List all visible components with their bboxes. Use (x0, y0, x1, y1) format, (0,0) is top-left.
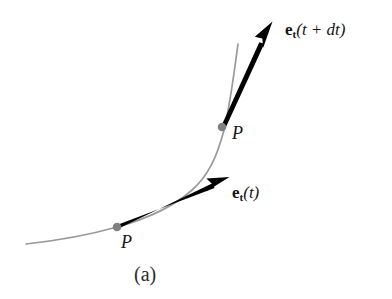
vector-argument: (t + dt) (296, 20, 345, 39)
tangent-vector-next-shaft (220, 42, 264, 130)
tangent-vector-current-head (206, 177, 229, 192)
vector-symbol: e (232, 183, 240, 202)
vector-symbol: e (285, 20, 293, 39)
figure-canvas (0, 0, 392, 299)
point-P-upper-label: P (232, 124, 243, 142)
point-P-lower-dot (113, 223, 122, 232)
figure-caption: (a) (134, 263, 156, 286)
tangent-vector-next-arrow (220, 22, 272, 130)
tangent-vector-next-label: et(t + dt) (285, 21, 345, 40)
trajectory-curve (26, 44, 238, 244)
point-P-upper-dot (218, 123, 227, 132)
vector-argument: (t) (243, 183, 259, 202)
tangent-vector-current-label: et(t) (232, 184, 259, 203)
point-P-lower-label: P (121, 233, 132, 251)
tangent-vector-next-head (255, 22, 273, 48)
tangent-vector-figure: et(t) et(t + dt) P P (a) (0, 0, 392, 299)
